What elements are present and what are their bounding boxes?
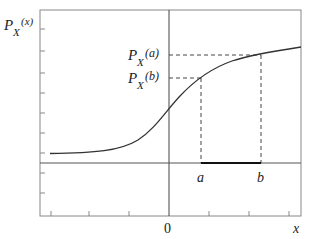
x-axis-label: x xyxy=(292,221,300,236)
level-a-label-arg: (a) xyxy=(145,46,159,60)
level-a-label-sub: X xyxy=(136,56,145,68)
dashed-guides xyxy=(169,55,261,163)
plot-frame xyxy=(40,10,301,216)
cdf-diagram: P X (x) P X (a) P X (b) a b 0 x xyxy=(0,0,311,239)
x-ticks xyxy=(51,211,289,216)
level-a-label: P xyxy=(127,47,137,63)
point-a-label: a xyxy=(197,170,204,185)
cdf-curve xyxy=(50,47,301,154)
point-b-label: b xyxy=(257,170,264,185)
level-b-label-arg: (b) xyxy=(145,69,159,83)
level-b-label-sub: X xyxy=(136,79,145,91)
origin-label: 0 xyxy=(164,221,171,236)
y-axis-label-arg: (x) xyxy=(21,15,34,28)
y-axis-label-sub: X xyxy=(12,26,21,38)
y-ticks xyxy=(40,29,45,193)
level-b-label: P xyxy=(127,70,137,86)
y-axis-label: P xyxy=(3,17,13,33)
